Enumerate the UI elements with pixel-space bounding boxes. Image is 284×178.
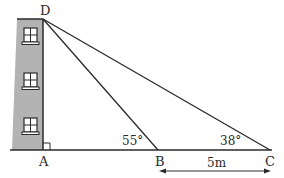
measurement-label-BC: 5m: [207, 156, 227, 170]
angle-label-B: 55°: [122, 134, 143, 148]
window-icon: [22, 118, 39, 135]
diagram-canvas: D A B C 55° 38° 5m: [0, 0, 284, 178]
angle-label-C: 38°: [220, 134, 241, 148]
building: [12, 19, 43, 150]
window-icon: [22, 28, 39, 45]
point-label-C: C: [265, 154, 275, 169]
line-DB: [43, 19, 158, 150]
window-icon: [22, 73, 39, 90]
diagram-svg: D A B C 55° 38° 5m: [0, 0, 284, 178]
right-angle-mark: [43, 143, 50, 150]
line-DC: [43, 19, 270, 150]
point-label-D: D: [40, 3, 50, 18]
point-label-A: A: [38, 154, 49, 169]
point-label-B: B: [155, 154, 165, 169]
